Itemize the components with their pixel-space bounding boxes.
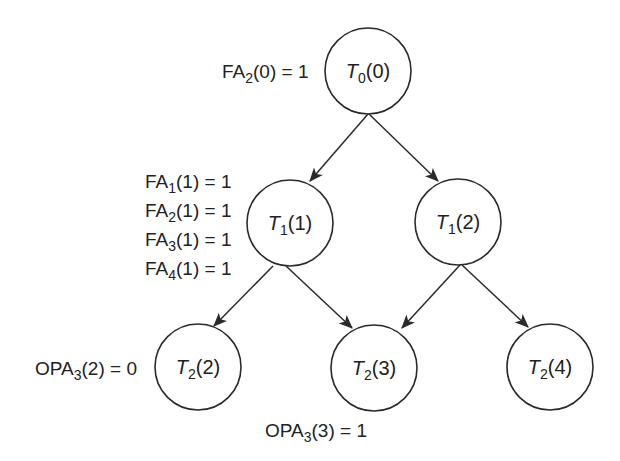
annotation-fa1-1: FA1(1) = 1 — [145, 171, 231, 196]
edge-arrow — [310, 114, 368, 181]
annotation-fa3-1: FA3(1) = 1 — [145, 229, 231, 254]
annotation-opa3-3: OPA3(3) = 1 — [265, 420, 367, 445]
edge-arrow — [402, 265, 460, 328]
task-node: T1(2) — [415, 179, 501, 265]
task-node: T2(4) — [507, 324, 593, 410]
edge-arrow — [462, 265, 528, 327]
edge-arrow — [286, 266, 352, 328]
annotation-fa2-1: FA2(1) = 1 — [145, 200, 231, 225]
task-tree-diagram: T0(0)T1(1)T1(2)T2(2)T2(3)T2(4) FA2(0) = … — [0, 0, 620, 461]
edge-arrow — [369, 114, 438, 181]
annotation-opa3-2: OPA3(2) = 0 — [35, 358, 137, 383]
annotation-fa4-1: FA4(1) = 1 — [145, 258, 231, 283]
diagram-canvas: T0(0)T1(1)T1(2)T2(2)T2(3)T2(4) FA2(0) = … — [0, 0, 620, 461]
task-node: T2(2) — [155, 324, 241, 410]
task-node: T2(3) — [331, 325, 417, 411]
task-node: T1(1) — [247, 180, 333, 266]
task-node: T0(0) — [325, 28, 411, 114]
annotation-fa2-0: FA2(0) = 1 — [222, 61, 308, 86]
